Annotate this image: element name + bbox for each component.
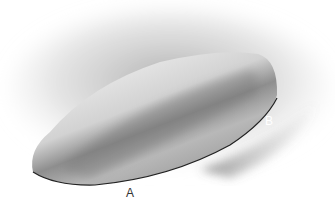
label-a: A	[126, 186, 134, 200]
diagram-canvas: A B	[0, 0, 335, 208]
label-b: B	[265, 114, 273, 128]
shaded-form-illustration	[0, 0, 335, 208]
